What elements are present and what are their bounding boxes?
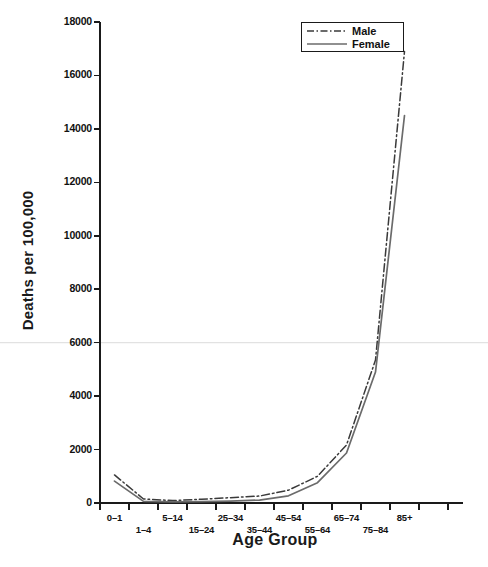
x-tick-label: 55–64: [296, 524, 340, 535]
x-tick-label: 65–74: [325, 512, 369, 523]
data-series-layer: [115, 51, 405, 502]
y-tick-label: 0: [46, 496, 92, 508]
y-tick-label: 6000: [46, 336, 92, 348]
chart-figure: Deaths per 100,000 Age Group 02000400060…: [0, 0, 488, 567]
axis-ticks: [94, 22, 448, 510]
y-tick-label: 10000: [46, 229, 92, 241]
legend: Male Female: [301, 22, 404, 52]
x-tick-label: 0–1: [93, 512, 137, 523]
x-tick-label: 35–44: [238, 524, 282, 535]
axis-lines: [100, 22, 463, 503]
y-tick-label: 4000: [46, 389, 92, 401]
y-tick-label: 2000: [46, 443, 92, 455]
x-tick-label: 45–54: [267, 512, 311, 523]
legend-sample-solid-icon: [306, 38, 348, 50]
series-line-female: [115, 116, 405, 502]
x-tick-label: 1–4: [122, 524, 166, 535]
x-tick-label: 85+: [383, 512, 427, 523]
legend-sample-dash-dot-icon: [306, 25, 348, 37]
series-line-male: [115, 51, 405, 500]
x-tick-label: 75–84: [354, 524, 398, 535]
x-tick-label: 5–14: [151, 512, 195, 523]
y-tick-label: 8000: [46, 282, 92, 294]
legend-item-male: Male: [302, 24, 405, 38]
y-tick-label: 14000: [46, 122, 92, 134]
legend-item-female: Female: [302, 37, 405, 51]
y-tick-label: 12000: [46, 175, 92, 187]
x-tick-label: 25–34: [209, 512, 253, 523]
legend-label-female: Female: [352, 38, 390, 50]
legend-label-male: Male: [352, 25, 376, 37]
y-tick-label: 16000: [46, 68, 92, 80]
y-tick-label: 18000: [46, 15, 92, 27]
x-tick-label: 15–24: [180, 524, 224, 535]
